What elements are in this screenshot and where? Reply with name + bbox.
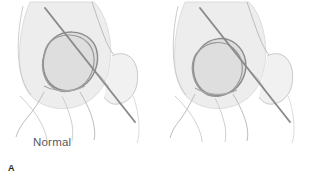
figure-root: Normal A Slip B [0,0,309,182]
hip-illustration-slip [155,0,309,182]
femoral-shaft-medial-cortex [170,94,195,138]
panel-normal: Normal A [0,0,154,182]
panel-slip: Slip B [155,0,309,182]
hip-illustration-normal [0,0,154,182]
panel-a-caption: Normal [33,137,71,149]
epiphysis-outer-outline [193,39,246,96]
panel-a-letter: A [8,164,15,173]
